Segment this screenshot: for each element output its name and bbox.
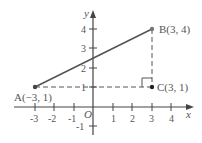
y-tick-label: 3 xyxy=(81,43,86,54)
point-a xyxy=(33,85,37,89)
x-tick-label: -3 xyxy=(30,113,38,124)
point-a-label: A(−3, 1) xyxy=(14,91,52,104)
y-axis-arrow-icon xyxy=(90,10,96,18)
point-c xyxy=(150,85,154,89)
x-axis-label: x xyxy=(185,108,191,120)
point-b xyxy=(150,27,154,31)
coordinate-diagram: -3 -2 -1 1 2 3 4 -1 1 2 3 4 O x y A(−3, … xyxy=(0,0,202,143)
y-tick-label: 4 xyxy=(81,24,86,35)
point-b-label: B(3, 4) xyxy=(159,23,191,36)
x-tick-label: -2 xyxy=(48,113,56,124)
origin-label: O xyxy=(84,108,92,120)
y-axis-label: y xyxy=(83,7,89,19)
point-c-label: C(3, 1) xyxy=(157,81,189,94)
y-tick-label: -1 xyxy=(76,121,84,132)
x-tick-label: 4 xyxy=(169,113,174,124)
x-tick-label: 3 xyxy=(149,113,154,124)
x-tick-label: 2 xyxy=(130,113,135,124)
x-tick-label: 1 xyxy=(111,113,116,124)
